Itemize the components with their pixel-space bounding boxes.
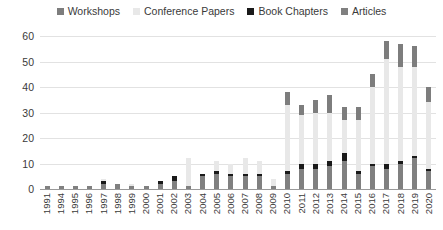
- legend-item[interactable]: Conference Papers: [133, 6, 234, 17]
- bar-slot[interactable]: [54, 36, 68, 189]
- bar-stack[interactable]: [342, 107, 347, 189]
- bar-segment: [257, 161, 262, 174]
- y-axis-tick-label: 40: [22, 82, 34, 92]
- bar-stack[interactable]: [228, 164, 233, 189]
- bar-stack[interactable]: [370, 74, 375, 189]
- bar-slot[interactable]: [68, 36, 82, 189]
- bar-slot[interactable]: [82, 36, 96, 189]
- bar-slot[interactable]: [309, 36, 323, 189]
- bar-slot[interactable]: [196, 36, 210, 189]
- legend-item-label: Book Chapters: [258, 6, 327, 17]
- x-axis-tick-label: 2006: [226, 193, 236, 214]
- legend-item[interactable]: Workshops: [57, 6, 120, 17]
- bar-slot[interactable]: [252, 36, 266, 189]
- bar-slot[interactable]: [266, 36, 280, 189]
- bar-stack[interactable]: [158, 181, 163, 189]
- bar-stack[interactable]: [101, 179, 106, 189]
- bar-stack[interactable]: [285, 92, 290, 189]
- bar-stack[interactable]: [313, 100, 318, 189]
- bar-stack[interactable]: [172, 176, 177, 189]
- x-axis-tick-label: 2015: [353, 193, 363, 214]
- bar-stack[interactable]: [271, 179, 276, 189]
- bar-slot[interactable]: [181, 36, 195, 189]
- bar-stack[interactable]: [87, 186, 92, 189]
- x-axis-labels: 1991199419951996199719981999200020012002…: [40, 192, 436, 230]
- bar-slot[interactable]: [111, 36, 125, 189]
- bar-stack[interactable]: [243, 158, 248, 189]
- bar-stack[interactable]: [299, 105, 304, 189]
- bar-slot[interactable]: [210, 36, 224, 189]
- legend-swatch-icon: [341, 8, 348, 15]
- bar-segment: [285, 92, 290, 105]
- bar-stack[interactable]: [384, 41, 389, 189]
- bar-slot[interactable]: [97, 36, 111, 189]
- legend-swatch-icon: [133, 8, 140, 15]
- x-axis-tick-label: 2002: [169, 193, 179, 214]
- y-axis-tick-label: 60: [22, 31, 34, 41]
- bar-slot[interactable]: [365, 36, 379, 189]
- bar-stack[interactable]: [426, 87, 431, 189]
- bar-slot[interactable]: [337, 36, 351, 189]
- x-tick-slot: 2009: [266, 192, 280, 230]
- bar-stack[interactable]: [129, 184, 134, 189]
- bar-slot[interactable]: [139, 36, 153, 189]
- x-axis-tick-label: 2013: [325, 193, 335, 214]
- legend-item[interactable]: Book Chapters: [247, 6, 327, 17]
- bar-segment: [356, 120, 361, 171]
- x-tick-slot: 2016: [365, 192, 379, 230]
- bar-slot[interactable]: [394, 36, 408, 189]
- bar-stack[interactable]: [73, 186, 78, 189]
- bar-slot[interactable]: [153, 36, 167, 189]
- bar-slot[interactable]: [351, 36, 365, 189]
- bar-segment: [214, 161, 219, 171]
- bar-segment: [59, 186, 64, 189]
- bar-segment: [73, 186, 78, 189]
- bar-slot[interactable]: [379, 36, 393, 189]
- x-axis-tick-label: 2005: [212, 193, 222, 214]
- bar-segment: [398, 44, 403, 67]
- legend-item[interactable]: Articles: [341, 6, 386, 17]
- bar-stack[interactable]: [257, 161, 262, 189]
- bar-segment: [398, 67, 403, 161]
- bar-stack[interactable]: [45, 186, 50, 189]
- bar-segment: [299, 169, 304, 189]
- y-axis-tick-label: 0: [28, 184, 34, 194]
- bar-slot[interactable]: [408, 36, 422, 189]
- bar-segment: [384, 169, 389, 189]
- plot-area: [40, 36, 436, 189]
- bar-slot[interactable]: [295, 36, 309, 189]
- x-tick-slot: 2010: [280, 192, 294, 230]
- bar-slot[interactable]: [40, 36, 54, 189]
- bar-stack[interactable]: [200, 174, 205, 189]
- x-tick-slot: 2005: [210, 192, 224, 230]
- bar-segment: [129, 186, 134, 189]
- x-tick-slot: 1999: [125, 192, 139, 230]
- bar-slot[interactable]: [323, 36, 337, 189]
- bar-stack[interactable]: [144, 186, 149, 189]
- x-axis-tick-label: 2000: [141, 193, 151, 214]
- bar-stack[interactable]: [327, 95, 332, 189]
- bar-slot[interactable]: [422, 36, 436, 189]
- bar-segment: [327, 166, 332, 189]
- bar-stack[interactable]: [214, 161, 219, 189]
- bar-stack[interactable]: [398, 44, 403, 189]
- bar-stack[interactable]: [59, 186, 64, 189]
- bar-slot[interactable]: [167, 36, 181, 189]
- bar-stack[interactable]: [115, 184, 120, 189]
- bar-segment: [299, 105, 304, 115]
- bar-slot[interactable]: [125, 36, 139, 189]
- x-tick-slot: 2008: [252, 192, 266, 230]
- bar-slot[interactable]: [238, 36, 252, 189]
- x-tick-slot: 2011: [295, 192, 309, 230]
- bar-segment: [228, 176, 233, 189]
- bar-slot[interactable]: [280, 36, 294, 189]
- x-axis-tick-label: 2003: [183, 193, 193, 214]
- x-axis-tick-label: 2011: [297, 193, 307, 213]
- bar-slot[interactable]: [224, 36, 238, 189]
- bar-stack[interactable]: [412, 46, 417, 189]
- bar-stack[interactable]: [356, 107, 361, 189]
- bar-segment: [412, 46, 417, 66]
- bar-segment: [271, 179, 276, 187]
- bar-segment: [313, 113, 318, 164]
- bar-stack[interactable]: [186, 158, 191, 189]
